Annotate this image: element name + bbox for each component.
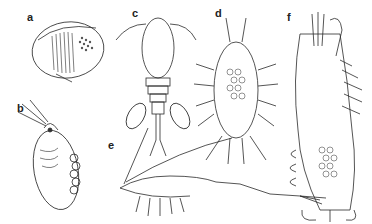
label-a: a	[27, 12, 33, 23]
label-f: f	[287, 12, 291, 23]
crustacean-figure: a b c d e f	[0, 0, 372, 224]
specimen-d	[194, 18, 278, 164]
label-c: c	[132, 8, 138, 19]
label-d: d	[215, 8, 222, 19]
label-e: e	[108, 140, 114, 151]
figure-drawing	[0, 0, 372, 224]
specimen-f	[290, 12, 362, 222]
specimen-a	[28, 17, 107, 82]
specimen-c	[116, 18, 196, 156]
specimen-b	[18, 100, 85, 213]
label-b: b	[17, 103, 24, 114]
